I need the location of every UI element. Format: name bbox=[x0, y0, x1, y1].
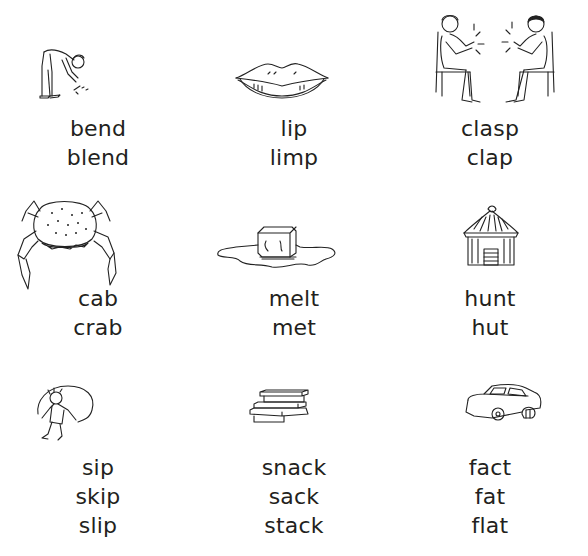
word: limp bbox=[196, 143, 392, 172]
word: clap bbox=[392, 143, 588, 172]
child-skipping-rope-icon bbox=[0, 384, 196, 444]
word-list: hunt hut bbox=[392, 284, 588, 342]
word-list: snack sack stack bbox=[196, 453, 392, 540]
word: lip bbox=[196, 114, 392, 143]
word-list: clasp clap bbox=[392, 114, 588, 172]
people-clapping-icon bbox=[392, 12, 588, 108]
melting-ice-cube-icon bbox=[196, 225, 392, 271]
worksheet-item-lip: lip limp bbox=[196, 0, 392, 185]
word: flat bbox=[392, 511, 588, 540]
word: clasp bbox=[392, 114, 588, 143]
lips-icon bbox=[196, 60, 392, 100]
word: sip bbox=[0, 453, 196, 482]
word: crab bbox=[0, 313, 196, 342]
word: skip bbox=[0, 482, 196, 511]
word-list: cab crab bbox=[0, 284, 196, 342]
word: sack bbox=[196, 482, 392, 511]
word: stack bbox=[196, 511, 392, 540]
worksheet-item-hunt: hunt hut bbox=[392, 185, 588, 370]
crab-icon bbox=[0, 197, 196, 287]
worksheet-item-cab: cab crab bbox=[0, 185, 196, 370]
worksheet-item-melt: melt met bbox=[196, 185, 392, 370]
worksheet-item-fact: fact fat flat bbox=[392, 370, 588, 556]
word-list: lip limp bbox=[196, 114, 392, 172]
stack-of-books-icon bbox=[196, 388, 392, 428]
worksheet-item-bend: bend blend bbox=[0, 0, 196, 185]
word: hut bbox=[392, 313, 588, 342]
word-list: bend blend bbox=[0, 114, 196, 172]
word: cab bbox=[0, 284, 196, 313]
man-bending-icon bbox=[0, 46, 196, 108]
word: melt bbox=[196, 284, 392, 313]
word: fact bbox=[392, 453, 588, 482]
worksheet-item-clasp: clasp clap bbox=[392, 0, 588, 185]
worksheet-item-snack: snack sack stack bbox=[196, 370, 392, 556]
word-list: sip skip slip bbox=[0, 453, 196, 540]
flat-tyre-car-icon bbox=[392, 384, 588, 422]
word: hunt bbox=[392, 284, 588, 313]
word: slip bbox=[0, 511, 196, 540]
word: bend bbox=[0, 114, 196, 143]
word-list: fact fat flat bbox=[392, 453, 588, 540]
word: fat bbox=[392, 482, 588, 511]
hut-icon bbox=[392, 205, 588, 271]
word: snack bbox=[196, 453, 392, 482]
word: met bbox=[196, 313, 392, 342]
worksheet-item-sip: sip skip slip bbox=[0, 370, 196, 556]
word-list: melt met bbox=[196, 284, 392, 342]
word: blend bbox=[0, 143, 196, 172]
